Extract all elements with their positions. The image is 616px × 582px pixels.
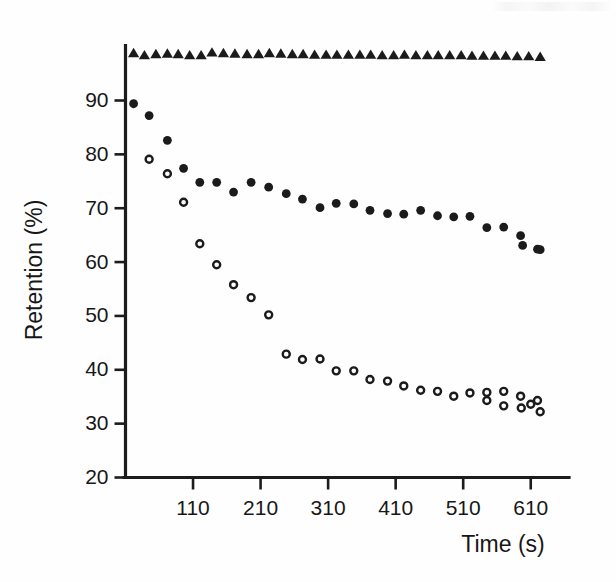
x-tick-label-210: 210	[243, 496, 278, 519]
series-triangles-point-20	[354, 49, 365, 58]
x-tick-label-410: 410	[378, 496, 413, 519]
y-tick-label-20: 20	[85, 465, 108, 488]
series-filled-circles-point-5	[212, 178, 221, 187]
series-triangles-point-17	[320, 49, 331, 58]
series-triangles-point-26	[422, 50, 433, 59]
chart-figure: 2030405060708090110210310410510610 Time …	[0, 0, 616, 582]
series-filled-circles-point-11	[316, 203, 325, 212]
series-open-circles-point-18	[450, 393, 457, 400]
series-filled-circles-point-6	[229, 188, 238, 197]
series-open-circles-point-16	[417, 387, 424, 394]
series-open-circles-point-21	[500, 388, 507, 395]
data-points-layer	[128, 47, 546, 415]
series-triangles-point-0	[128, 48, 139, 57]
y-tick-label-80: 80	[85, 142, 108, 165]
axes-layer	[124, 46, 569, 478]
series-filled-circles-point-8	[264, 183, 273, 192]
series-filled-circles-point-21	[482, 223, 491, 232]
series-filled-circles-point-0	[129, 99, 138, 108]
series-open-circles-point-5	[230, 281, 237, 288]
series-triangles-point-28	[444, 50, 455, 59]
series-filled-circles-point-15	[383, 209, 392, 218]
series-open-circles-point-12	[350, 367, 357, 374]
series-open-circles	[146, 156, 541, 404]
series-filled-circles-point-12	[332, 199, 341, 208]
y-tick-label-70: 70	[85, 196, 108, 219]
x-tick-label-110: 110	[176, 496, 209, 519]
series-triangles-point-29	[456, 50, 467, 59]
series-triangles-point-9	[229, 48, 240, 57]
series-open-circles-point-6	[248, 294, 255, 301]
y-tick-label-40: 40	[85, 357, 108, 380]
series-filled-circles-point-18	[433, 211, 442, 220]
series-filled-circles-point-3	[179, 164, 188, 173]
series-open-circles-point-9	[299, 356, 306, 363]
series-triangles-point-23	[388, 50, 399, 59]
series-open-circles-point-19	[466, 389, 473, 396]
series-filled-circles-point-4	[195, 178, 204, 187]
y-tick-label-50: 50	[85, 303, 108, 326]
series-triangles-point-13	[275, 48, 286, 57]
series-triangles-point-12	[264, 48, 275, 57]
series-triangles-point-16	[309, 49, 320, 58]
series-open-circles-tail-point-2	[518, 405, 525, 412]
series-triangles-point-19	[343, 49, 354, 58]
series-open-circles-point-1	[164, 170, 171, 177]
series-triangles-point-11	[253, 49, 264, 58]
series-filled-circles-point-10	[298, 195, 307, 204]
series-filled-circles-point-7	[247, 178, 256, 187]
series-triangles-point-1	[139, 50, 150, 59]
series-filled-circles-point-9	[282, 189, 291, 198]
scatter-plot: 2030405060708090110210310410510610 Time …	[0, 0, 616, 582]
y-tick-label-60: 60	[85, 250, 108, 273]
series-filled-circles-tail	[518, 241, 544, 254]
series-triangles-point-25	[410, 50, 421, 59]
series-filled-circles-point-23	[516, 231, 525, 240]
series-triangles-point-30	[466, 50, 477, 59]
series-triangles-point-27	[433, 50, 444, 59]
series-triangles-point-33	[500, 50, 511, 59]
series-triangles-point-15	[298, 49, 309, 58]
series-triangles-point-14	[287, 49, 298, 58]
y-axis-title: Retention (%)	[21, 200, 47, 341]
series-open-circles-point-2	[180, 199, 187, 206]
series-open-circles-tail-point-3	[527, 401, 534, 408]
series-triangles-point-36	[535, 52, 546, 61]
series-open-circles-point-8	[283, 351, 290, 358]
series-open-circles-tail-point-4	[537, 408, 544, 415]
series-triangles-point-34	[512, 51, 523, 60]
y-tick-label-90: 90	[85, 88, 108, 111]
series-filled-circles-tail-point-1	[536, 245, 545, 254]
series-triangles-point-8	[218, 48, 229, 57]
series-filled-circles-point-16	[399, 210, 408, 219]
series-filled-circles-point-2	[163, 136, 172, 145]
series-open-circles-point-20	[483, 389, 490, 396]
series-open-circles-point-13	[366, 376, 373, 383]
y-tick-label-30: 30	[85, 411, 108, 434]
series-open-circles-point-7	[265, 311, 272, 318]
series-triangles-point-3	[162, 48, 173, 57]
series-filled-circles-point-1	[145, 111, 154, 120]
series-filled-circles-point-13	[349, 200, 358, 209]
x-axis-title: Time (s)	[461, 531, 544, 557]
series-open-circles-point-10	[317, 356, 324, 363]
series-triangles-point-24	[399, 49, 410, 58]
series-open-circles-point-17	[434, 388, 441, 395]
x-tick-label-510: 510	[446, 496, 481, 519]
series-filled-circles-point-20	[466, 212, 475, 221]
series-open-circles-point-11	[333, 367, 340, 374]
series-triangles-point-18	[331, 49, 342, 58]
series-filled-circles-point-14	[366, 206, 375, 215]
series-open-circles-tail-point-0	[483, 397, 490, 404]
x-tick-label-610: 610	[513, 496, 548, 519]
series-filled-circles-tail-point-0	[518, 241, 527, 250]
series-filled-circles	[129, 99, 542, 253]
axis-ticks-layer: 2030405060708090110210310410510610	[85, 88, 548, 519]
series-triangles-point-21	[365, 49, 376, 58]
series-triangles-point-2	[150, 49, 161, 58]
series-triangles-point-35	[523, 51, 534, 60]
series-filled-circles-point-19	[449, 212, 458, 221]
series-triangles-point-32	[489, 50, 500, 59]
series-filled-circles-point-22	[499, 223, 508, 232]
series-triangles-point-7	[206, 47, 217, 56]
